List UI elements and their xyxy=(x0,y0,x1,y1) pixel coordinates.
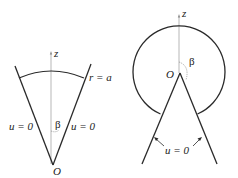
pointer-arrow-right xyxy=(193,139,200,146)
z-axis-arrow-left xyxy=(50,51,52,55)
z-axis-label-right: z xyxy=(181,7,187,19)
arc-r-equals-a xyxy=(19,71,84,78)
z-axis-arrow-right xyxy=(178,14,180,18)
pointer-arrow-left xyxy=(156,139,164,146)
left-edge-label: u = 0 xyxy=(9,120,33,132)
angle-label-right: β xyxy=(189,55,195,67)
edge-label-right: u = 0 xyxy=(165,144,189,156)
z-axis-label-left: z xyxy=(53,47,59,59)
angle-beta-arc-left xyxy=(51,130,59,132)
diagram-canvas: z r = a u = 0 β u = 0 O z β O u = 0 xyxy=(0,0,238,178)
right-figure: z β O u = 0 xyxy=(133,7,225,164)
cone-edge-left xyxy=(15,66,53,165)
boundary-label: r = a xyxy=(89,71,112,83)
angle-label-left: β xyxy=(55,118,61,130)
angle-beta-arc-right xyxy=(179,62,187,80)
right-edge-label: u = 0 xyxy=(71,120,95,132)
origin-label-right: O xyxy=(166,68,174,80)
cone-edge-right xyxy=(53,64,91,165)
origin-label-left: O xyxy=(53,165,61,177)
left-figure: z r = a u = 0 β u = 0 O xyxy=(9,47,112,177)
